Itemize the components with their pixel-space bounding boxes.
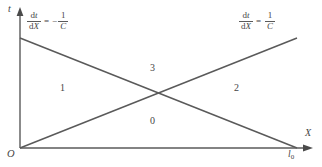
rhs-numerator-left: 1	[59, 11, 68, 21]
derivative-numerator-left: dt	[28, 11, 39, 21]
region-label-3: 3	[150, 63, 155, 73]
t-symbol-num-left: t	[35, 10, 38, 20]
derivative-fraction-right: dt dX	[238, 11, 254, 31]
X-symbol-den-left: X	[34, 21, 40, 31]
X-symbol-den-right: X	[246, 21, 252, 31]
derivative-numerator-right: dt	[240, 11, 251, 21]
equation-positive-slope: dt dX = 1 C	[238, 11, 276, 31]
region-label-2: 2	[234, 83, 239, 93]
rhs-fraction-right: 1 C	[264, 11, 276, 31]
derivative-fraction-left: dt dX	[26, 11, 42, 31]
rhs-denominator-left: C	[58, 21, 68, 32]
rhs-numerator-right: 1	[266, 11, 275, 21]
region-label-0: 0	[150, 116, 155, 126]
derivative-denominator-left: dX	[27, 21, 41, 32]
x-tick-label-l0: l0	[288, 150, 294, 161]
equation-negative-slope: dt dX = − 1 C	[26, 11, 69, 31]
t-axis-label: t	[8, 4, 11, 14]
x-axis-arrowhead	[303, 144, 313, 151]
rhs-fraction-left: 1 C	[57, 11, 69, 31]
origin-label: O	[7, 149, 15, 160]
region-label-1: 1	[60, 83, 65, 93]
equals-sign-right: =	[254, 16, 263, 26]
tick-l-subscript: 0	[291, 153, 295, 161]
slope-region-diagram: t X O l0 dt dX = − 1 C dt dX = 1 C 1 3 2…	[0, 0, 322, 167]
x-axis-label: X	[305, 128, 311, 138]
t-symbol-num-right: t	[247, 10, 250, 20]
rhs-denominator-right: C	[265, 21, 275, 32]
equals-sign-left: =	[42, 16, 51, 26]
derivative-denominator-right: dX	[239, 21, 253, 32]
t-axis-arrowhead	[17, 7, 24, 16]
